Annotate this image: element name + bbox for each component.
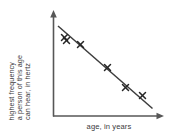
data-point xyxy=(64,38,70,44)
y-axis-label-line-1: highest frequency xyxy=(8,62,15,120)
trend-line xyxy=(58,26,153,109)
y-axis xyxy=(50,10,57,117)
x-axis xyxy=(53,113,164,120)
y-axis-label-line-3: can hear, in hertz xyxy=(24,63,31,120)
data-point xyxy=(140,93,146,99)
scatter-plot-figure: highest frequency a person of this age c… xyxy=(0,0,170,138)
x-axis-label: age, in years xyxy=(53,122,165,131)
y-axis-label: highest frequency a person of this age c… xyxy=(8,12,48,120)
